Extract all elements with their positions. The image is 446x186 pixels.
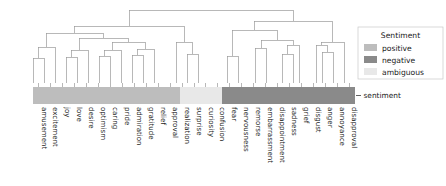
legend-swatch-negative — [364, 56, 377, 63]
dendrogram-link — [282, 54, 293, 83]
leaf-label-desire: desire — [87, 107, 96, 129]
legend-label-negative: negative — [382, 56, 416, 65]
dendrogram-link — [227, 56, 238, 83]
dendrogram-canvas: amusementexcitementjoylovedesireoptimism… — [0, 0, 446, 186]
leaf-ticks — [39, 83, 349, 87]
leaf-label-admiration: admiration — [135, 107, 144, 146]
dendrogram-link — [254, 21, 332, 42]
dendrogram-link — [74, 26, 184, 42]
leaf-label-remorse: remorse — [254, 107, 263, 136]
legend-label-ambiguous: ambiguous — [382, 68, 424, 77]
dendrogram-link — [66, 57, 77, 83]
leaf-label-disappointment: disappointment — [278, 107, 287, 163]
leaf-label-fear: fear — [230, 107, 239, 121]
dendrogram-link — [46, 33, 103, 47]
color-bar-segment-positive — [33, 87, 180, 104]
dendrogram-link — [99, 56, 110, 83]
leaf-label-nervousness: nervousness — [242, 107, 251, 152]
leaf-label-curiosity: curiosity — [207, 107, 216, 137]
leaf-label-surprise: surprise — [195, 107, 204, 136]
dendrogram-link — [104, 50, 121, 83]
leaf-label-excitement: excitement — [51, 107, 60, 147]
dendrogram-link — [261, 40, 293, 48]
dendrogram-link — [129, 10, 293, 26]
leaf-label-grief: grief — [302, 107, 311, 124]
row-label-sentiment: sentiment — [356, 91, 401, 100]
legend-title: Sentiment — [381, 31, 420, 40]
dendrogram-link — [33, 58, 44, 83]
dendrogram-link — [176, 42, 192, 83]
leaf-label-anger: anger — [326, 107, 335, 128]
leaf-labels: amusementexcitementjoylovedesireoptimism… — [40, 106, 359, 163]
leaf-label-amusement: amusement — [40, 107, 49, 150]
dendrogram-link — [316, 45, 327, 83]
leaf-label-relief: relief — [159, 107, 168, 125]
dendrogram-link — [71, 50, 88, 83]
leaf-label-optimism: optimism — [99, 107, 108, 140]
leaf-label-realization: realization — [183, 107, 192, 144]
leaf-label-pride: pride — [123, 107, 132, 125]
dendrogram-link — [322, 52, 333, 83]
leaf-label-caring: caring — [111, 107, 120, 129]
leaf-label-joy: joy — [63, 106, 72, 118]
dendrogram-link — [79, 38, 128, 50]
dendrogram-link — [38, 47, 55, 83]
leaf-label-embarrassment: embarrassment — [266, 107, 275, 163]
dendrogram-link — [187, 54, 198, 83]
row-label-text: sentiment — [364, 91, 401, 100]
dendrogram-link — [132, 55, 143, 83]
dendrogram-links — [33, 10, 344, 83]
leaf-label-approval: approval — [171, 107, 180, 138]
sentiment-color-bar — [33, 87, 355, 104]
dendrogram-link — [232, 30, 277, 56]
dendrogram-link — [255, 48, 266, 83]
leaf-label-sadness: sadness — [290, 107, 299, 136]
leaf-label-disapproval: disapproval — [350, 107, 359, 148]
leaf-label-gratitude: gratitude — [147, 107, 156, 140]
legend-label-positive: positive — [382, 44, 412, 53]
legend: Sentimentpositivenegativeambiguous — [358, 27, 443, 79]
dendrogram-link — [137, 49, 154, 83]
leaf-label-love: love — [75, 107, 84, 122]
legend-swatch-positive — [364, 44, 377, 51]
leaf-label-disgust: disgust — [314, 107, 323, 133]
leaf-label-confusion: confusion — [218, 107, 227, 141]
dendrogram-link — [321, 42, 344, 83]
legend-swatch-ambiguous — [364, 68, 377, 75]
color-bar-segment-ambiguous — [180, 87, 222, 104]
leaf-label-annoyance: annoyance — [338, 107, 347, 146]
dendrogram-figure: amusementexcitementjoylovedesireoptimism… — [0, 0, 446, 186]
color-bar-segment-negative — [222, 87, 355, 104]
